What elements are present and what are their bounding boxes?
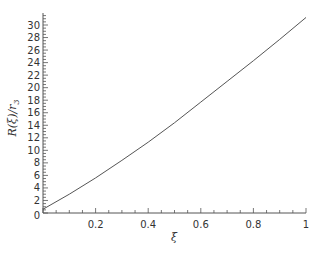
y-axis-minor-ticks bbox=[43, 16, 48, 213]
y-tick-label: 16 bbox=[27, 107, 40, 118]
y-tick-label: 22 bbox=[27, 70, 40, 81]
x-axis-minor-ticks bbox=[43, 208, 306, 213]
line-chart: 024681012141618202224262830 0.20.40.60.8… bbox=[0, 0, 320, 254]
y-tick-label: 8 bbox=[34, 157, 40, 168]
data-line bbox=[43, 17, 306, 209]
y-tick-label: 6 bbox=[34, 170, 40, 181]
x-axis-label: ξ bbox=[171, 231, 178, 244]
x-tick-label: 0.6 bbox=[193, 219, 209, 230]
y-tick-label: 20 bbox=[27, 82, 40, 93]
y-axis-label-main: R(ξ)/r bbox=[6, 104, 19, 138]
y-tick-label: 26 bbox=[27, 45, 40, 56]
y-tick-label: 14 bbox=[27, 120, 40, 131]
x-tick-label: 0.4 bbox=[140, 219, 156, 230]
y-axis-label: R(ξ)/r3 bbox=[6, 100, 21, 138]
x-tick-label: 0.2 bbox=[88, 219, 104, 230]
x-tick-label: 0.8 bbox=[245, 219, 261, 230]
y-tick-label: 2 bbox=[34, 195, 40, 206]
y-tick-label: 24 bbox=[27, 57, 40, 68]
y-axis-tick-labels: 024681012141618202224262830 bbox=[27, 20, 40, 222]
x-axis-tick-labels: 0.20.40.60.81 bbox=[88, 219, 310, 230]
y-tick-label: 10 bbox=[27, 145, 40, 156]
y-tick-label: 12 bbox=[27, 132, 40, 143]
y-axis-label-subscript: 3 bbox=[12, 100, 21, 105]
y-tick-label: 4 bbox=[34, 182, 40, 193]
y-tick-label: 0 bbox=[34, 210, 40, 221]
y-tick-label: 28 bbox=[27, 32, 40, 43]
x-tick-label: 1 bbox=[303, 219, 309, 230]
y-tick-label: 30 bbox=[27, 20, 40, 31]
y-tick-label: 18 bbox=[27, 95, 40, 106]
